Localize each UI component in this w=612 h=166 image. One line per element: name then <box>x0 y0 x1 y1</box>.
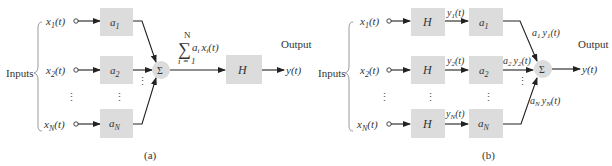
inputs-brace-b <box>345 22 353 131</box>
system-HN-label: H <box>422 117 433 131</box>
system-H2-label: H <box>422 63 433 77</box>
sigma-symbol-a: Σ <box>157 65 163 76</box>
arrow-a1-to-sum <box>133 21 156 62</box>
input-port-2-a <box>74 68 78 72</box>
intermediate-y1: y1(t) <box>446 7 465 20</box>
vdots-gains-b: ⋮ <box>483 91 494 103</box>
vdots-inputs-b: ⋮ <box>379 91 390 103</box>
system-H1-label: H <box>422 15 433 29</box>
vdots-sum-a: ⋮ <box>137 75 148 87</box>
vdots-H-b: ⋮ <box>425 91 436 103</box>
inputs-brace-a <box>34 22 42 131</box>
output-label-a: Output <box>281 38 312 50</box>
weighted-a1y1: a1y1(t) <box>532 27 561 40</box>
linear-system-diagrams: Inputs x1(t) x2(t) ⋮ ⋮ ⋮ xN(t) a1 a2 <box>0 0 612 166</box>
weighted-a2y2: a2y2(t) <box>503 55 532 68</box>
input-x2-b: x2(t) <box>359 64 380 79</box>
svg-text:i = 1: i = 1 <box>178 56 196 66</box>
caption-a: (a) <box>144 149 157 162</box>
input-x2-a: x2(t) <box>45 64 66 79</box>
diagram-a: Inputs x1(t) x2(t) ⋮ ⋮ ⋮ xN(t) a1 a2 <box>6 8 312 162</box>
system-H-label-a: H <box>237 63 248 77</box>
input-xN-a: xN(t) <box>43 118 65 133</box>
input-port-N-a <box>74 122 78 126</box>
input-port-N-b <box>387 122 391 126</box>
caption-b: (b) <box>482 149 495 162</box>
input-x1-b: x1(t) <box>359 15 380 30</box>
vdots-inputs-a: ⋮ <box>66 91 77 103</box>
input-port-1-a <box>74 19 78 23</box>
output-label-b: Output <box>578 38 609 50</box>
input-port-2-b <box>387 68 391 72</box>
vdots-sum-b: ⋮ <box>517 75 528 87</box>
output-y-a: y(t) <box>285 64 302 77</box>
input-port-1-b <box>387 19 391 23</box>
output-y-b: y(t) <box>581 63 598 76</box>
inputs-label-b: Inputs <box>318 67 346 79</box>
input-x1-a: x1(t) <box>45 15 66 30</box>
inputs-label-a: Inputs <box>6 67 34 79</box>
sigma-symbol-b: Σ <box>539 64 545 75</box>
vdots-gains-a: ⋮ <box>114 91 125 103</box>
svg-text:aixi(t): aixi(t) <box>192 41 219 55</box>
weighted-aNyN: aNyN(t) <box>530 95 561 108</box>
sum-expression-a: N ∑ aixi(t) i = 1 <box>178 30 219 66</box>
diagram-b: Inputs x1(t) x2(t) ⋮ ⋮ ⋮ ⋮ xN(t) H H H <box>318 7 609 162</box>
intermediate-yN: yN(t) <box>445 108 465 121</box>
input-xN-b: xN(t) <box>356 118 378 133</box>
intermediate-y2: y2(t) <box>446 55 465 68</box>
